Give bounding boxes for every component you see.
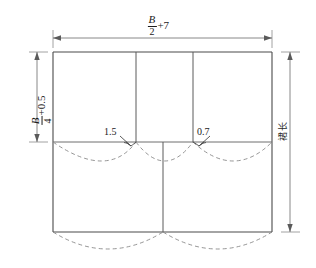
top-dim-arrow-left-icon — [53, 35, 61, 41]
right-dim-arrow-bottom-icon — [287, 224, 292, 232]
hem-arc-right — [163, 232, 272, 249]
waist-arc-center — [136, 142, 193, 161]
left-height-dimension-group — [29, 52, 48, 142]
waist-arc-left — [53, 142, 136, 161]
right-dim-arrow-top-icon — [287, 52, 292, 60]
left-dart-leg-c — [131, 142, 136, 146]
hem-scallop-arcs-group — [53, 232, 272, 249]
hem-arc-left — [53, 232, 163, 249]
pattern-drawing-canvas — [0, 0, 316, 268]
right-dart-leg-c — [193, 142, 199, 146]
upper-panel-dividers-group — [136, 52, 193, 142]
waist-arc-right — [193, 142, 272, 161]
pattern-diagram: B 2 +7 B 4 +0.5 裙长 1.5 0.7 — [0, 0, 316, 268]
left-dim-arrow-bottom-icon — [34, 134, 39, 142]
left-dim-arrow-top-icon — [34, 52, 39, 60]
left-dart-group — [120, 136, 136, 146]
right-height-dimension-group — [281, 52, 300, 232]
top-width-dimension-group — [53, 30, 272, 48]
top-dim-arrow-right-icon — [264, 35, 272, 41]
